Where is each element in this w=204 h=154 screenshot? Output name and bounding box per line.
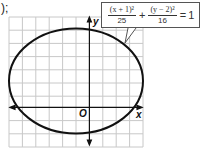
x-term-denominator: 25	[117, 16, 126, 26]
y-term-numerator: (y − 2)²	[148, 5, 176, 16]
y-axis-label: y	[93, 16, 99, 27]
equation-rhs: 1	[188, 9, 194, 21]
y-axis-down-arrow-icon	[87, 140, 91, 145]
y-axis-up-arrow-icon	[87, 17, 91, 22]
y-axis	[87, 17, 91, 145]
equals-sign: =	[180, 9, 186, 21]
equation-callout: (x + 1)² 25 + (y − 2)² 16 = 1	[101, 2, 200, 28]
x-axis-label: x	[136, 109, 142, 120]
fraction-y-term: (y − 2)² 16	[148, 5, 176, 26]
x-term-numerator: (x + 1)²	[108, 5, 136, 16]
origin-label: O	[79, 108, 87, 119]
fraction-x-term: (x + 1)² 25	[108, 5, 136, 26]
grid	[9, 17, 143, 147]
y-term-denominator: 16	[158, 16, 167, 26]
x-axis-left-arrow-icon	[10, 105, 15, 109]
plus-sign: +	[139, 9, 145, 21]
